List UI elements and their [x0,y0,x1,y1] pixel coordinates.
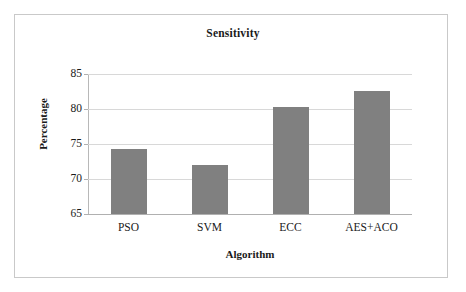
chart-title: Sensitivity [0,27,466,39]
bar [111,149,147,214]
bar [354,91,390,214]
y-axis-tick-labels: 6570758085 [50,74,82,214]
x-axis-tick-label: ECC [250,222,331,234]
gridline [88,214,412,215]
x-axis-tick-labels: PSOSVMECCAES+ACO [88,222,412,238]
x-axis-tick-label: SVM [169,222,250,234]
y-axis-tick [84,214,88,215]
y-axis-tick-label: 80 [52,103,82,115]
plot-area [88,74,412,214]
y-axis-tick [84,109,88,110]
gridline [88,74,412,75]
y-axis-tick-label: 85 [52,68,82,80]
y-axis-tick [84,179,88,180]
x-axis-tick-label: AES+ACO [331,222,412,234]
bar [192,165,228,214]
y-axis-tick [84,74,88,75]
chart-figure: Sensitivity Percentage 6570758085 PSOSVM… [0,0,466,292]
y-axis-title: Percentage [37,74,49,174]
bar [273,107,309,214]
y-axis-tick [84,144,88,145]
x-axis-title: Algorithm [88,248,412,260]
y-axis-tick-label: 65 [52,208,82,220]
y-axis-tick-label: 75 [52,138,82,150]
x-axis-tick-label: PSO [88,222,169,234]
y-axis-tick-label: 70 [52,173,82,185]
